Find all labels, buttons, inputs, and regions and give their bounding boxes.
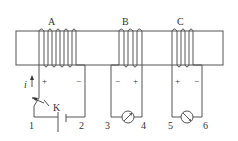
coil-a-label: A: [48, 16, 56, 27]
terminal-3: 3: [105, 120, 110, 131]
current-label: i: [24, 79, 27, 90]
terminal-5: 5: [168, 120, 173, 131]
terminal-1: 1: [29, 120, 34, 131]
coil-c-plus: +: [175, 76, 180, 86]
switch-label: K: [53, 102, 61, 113]
coil-b: [111, 29, 142, 117]
coil-b-minus: −: [115, 76, 120, 86]
terminal-4: 4: [141, 120, 146, 131]
coil-a-plus: +: [42, 76, 47, 86]
terminal-6: 6: [203, 120, 208, 131]
galvanometer-b: [122, 111, 134, 123]
current-arrow-icon: [30, 75, 34, 87]
coil-c-label: C: [177, 16, 184, 27]
circuit-diagram: A B C + − − + + − i K 1 2 3 4 5 6: [0, 0, 238, 141]
coil-b-plus: +: [133, 76, 138, 86]
coil-b-label: B: [122, 16, 129, 27]
galvanometer-c: [181, 111, 193, 123]
coil-a-minus: −: [76, 76, 81, 86]
terminal-2: 2: [79, 120, 84, 131]
coil-c: [172, 29, 202, 117]
coil-c-minus: −: [194, 76, 199, 86]
coil-a: [39, 29, 85, 117]
